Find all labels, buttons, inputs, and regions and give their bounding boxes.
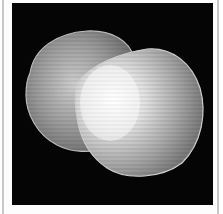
front-shell (75, 49, 203, 176)
shell-photo (12, 3, 213, 205)
